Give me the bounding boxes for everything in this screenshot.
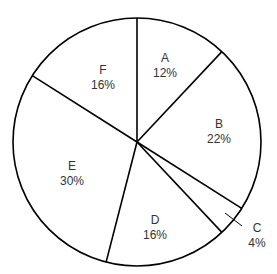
- slice-c-percent: 4%: [248, 236, 266, 250]
- slice-b-percent: 22%: [207, 132, 231, 146]
- slice-d-percent: 16%: [143, 228, 167, 242]
- slice-e-name: E: [68, 159, 76, 173]
- slice-c-name: C: [253, 221, 262, 235]
- slice-a-percent: 12%: [153, 66, 177, 80]
- slice-e-percent: 30%: [60, 174, 84, 188]
- slice-a-name: A: [161, 51, 169, 65]
- pie-chart: A 12% B 22% C 4% D 16% E 30% F 16%: [0, 0, 277, 274]
- slice-f-percent: 16%: [91, 78, 115, 92]
- slice-d-name: D: [151, 213, 160, 227]
- slice-b-name: B: [215, 117, 223, 131]
- slice-f-name: F: [99, 63, 106, 77]
- slice-c: C 4%: [248, 221, 266, 250]
